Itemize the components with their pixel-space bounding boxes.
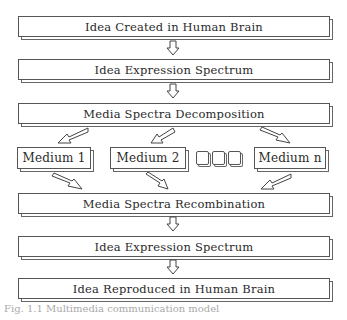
- down-arrow-icon: [166, 83, 180, 99]
- step-idea-reproduced: Idea Reproduced in Human Brain: [18, 278, 330, 299]
- step-idea-expression-spectrum: Idea Expression Spectrum: [18, 59, 330, 80]
- diagonal-arrow-icon: [258, 172, 294, 192]
- ellipsis-square-icon: [196, 151, 209, 165]
- diagonal-arrow-icon: [55, 126, 91, 146]
- medium-2: Medium 2: [110, 147, 186, 169]
- diagonal-arrow-icon: [142, 172, 178, 192]
- ellipsis-square-icon: [212, 151, 225, 165]
- diagonal-arrow-icon: [145, 126, 181, 146]
- medium-1: Medium 1: [17, 147, 91, 169]
- diagonal-arrow-icon: [258, 126, 294, 146]
- step-media-spectra-recombination: Media Spectra Recombination: [18, 193, 330, 214]
- step-media-spectra-decomposition: Media Spectra Decomposition: [18, 103, 330, 124]
- down-arrow-icon: [166, 259, 180, 275]
- diagonal-arrow-icon: [50, 172, 86, 192]
- down-arrow-icon: [166, 40, 180, 56]
- ellipsis-square-icon: [228, 151, 241, 165]
- step-idea-created: Idea Created in Human Brain: [18, 16, 330, 37]
- down-arrow-icon: [166, 216, 180, 232]
- step-idea-expression-spectrum-2: Idea Expression Spectrum: [18, 236, 330, 257]
- figure-caption: Fig. 1.1 Multimedia communication model: [4, 303, 219, 314]
- medium-n: Medium n: [254, 147, 326, 169]
